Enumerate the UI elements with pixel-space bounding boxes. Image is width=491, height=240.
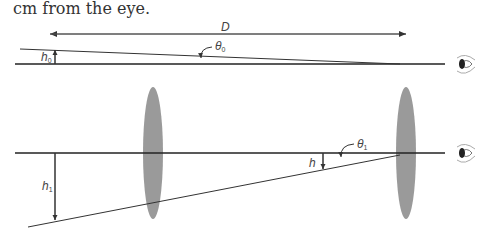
- eye-icon: [457, 144, 475, 162]
- ray-bottom: [28, 155, 400, 227]
- label-h0: h0: [41, 50, 52, 64]
- label-d: D: [221, 20, 230, 34]
- theta1-pointer: [341, 144, 354, 157]
- ray-top: [20, 49, 400, 64]
- eye-icon: [457, 55, 475, 73]
- label-h: h: [309, 156, 316, 170]
- label-theta0: θ0: [215, 39, 226, 53]
- label-h1: h1: [42, 179, 53, 193]
- label-theta1: θ1: [357, 137, 368, 151]
- magnifier-diagram: D h0 θ0 h1 h θ1: [0, 0, 491, 240]
